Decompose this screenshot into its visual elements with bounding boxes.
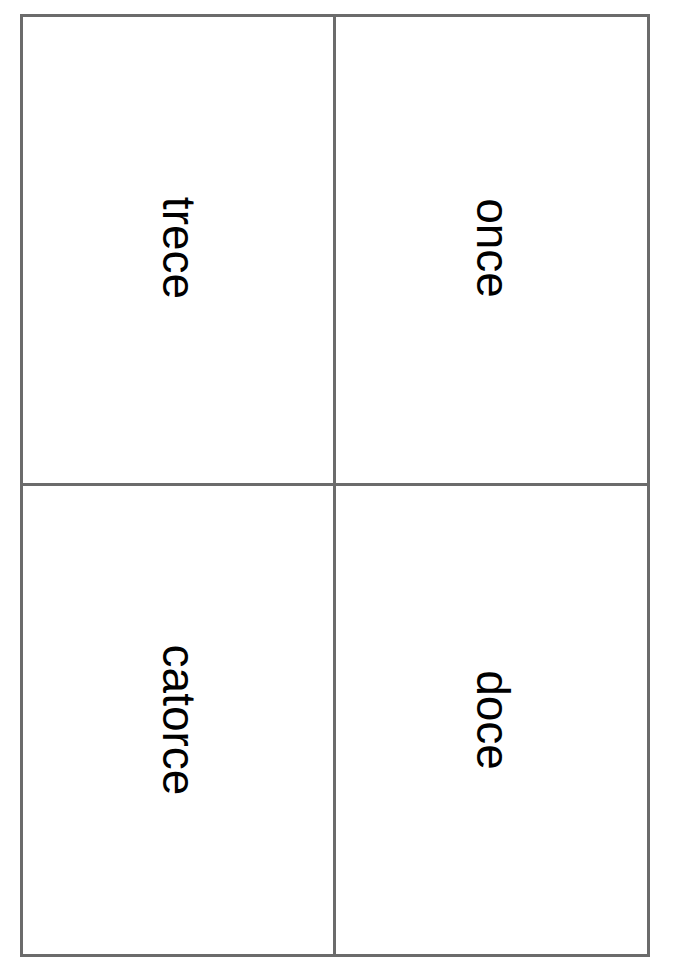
card-bottom-right: doce (336, 486, 647, 954)
card-word: once (470, 198, 516, 298)
card-bottom-left: catorce (23, 486, 333, 954)
card-word: doce (470, 670, 516, 770)
card-top-right: once (336, 17, 647, 483)
card-top-left: trece (23, 17, 333, 483)
card-word: trece (156, 197, 202, 299)
card-word: catorce (156, 645, 202, 796)
